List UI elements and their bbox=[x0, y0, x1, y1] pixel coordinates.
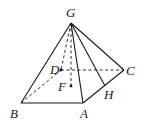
label-B: B bbox=[10, 107, 18, 120]
label-A: A bbox=[80, 107, 88, 120]
label-H: H bbox=[104, 88, 113, 101]
label-G: G bbox=[66, 6, 75, 19]
label-F: F bbox=[58, 80, 66, 93]
edge-GC bbox=[71, 23, 124, 70]
point-F-dot bbox=[70, 85, 73, 88]
label-D: D bbox=[50, 63, 59, 76]
pyramid-diagram: G D C F H B A bbox=[0, 0, 143, 124]
point-D-dot bbox=[60, 69, 63, 72]
label-C: C bbox=[126, 64, 135, 77]
